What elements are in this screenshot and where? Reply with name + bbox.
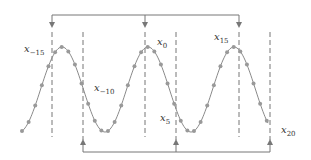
top-bracket-arrows <box>49 15 242 28</box>
label-subscript: 0 <box>163 42 167 50</box>
sample-point <box>46 64 50 68</box>
sample-point <box>66 49 70 53</box>
sample-point <box>146 45 150 49</box>
sample-point <box>166 81 170 85</box>
sample-point <box>86 102 90 106</box>
sample-point <box>33 103 37 107</box>
sample-point <box>205 103 209 107</box>
label-subscript: −15 <box>30 49 45 57</box>
sample-point <box>152 49 156 53</box>
sample-point <box>93 119 97 123</box>
sample-point <box>192 129 196 133</box>
label-x-15: x−15 <box>24 44 44 57</box>
sample-point <box>159 63 163 67</box>
sample-point <box>40 83 44 87</box>
sample-point <box>252 81 256 85</box>
sample-point <box>126 83 130 87</box>
label-subscript: 20 <box>287 130 296 138</box>
sample-point <box>20 129 24 133</box>
sample-point <box>119 103 123 107</box>
label-x20: x20 <box>281 125 296 138</box>
sample-point <box>106 129 110 133</box>
bottom-bracket-arrows <box>80 139 273 152</box>
sample-point <box>73 63 77 67</box>
sample-point <box>258 102 262 106</box>
sample-point <box>199 120 203 124</box>
arrow-down-icon <box>142 22 148 28</box>
sample-point <box>80 81 84 85</box>
arrow-down-icon <box>49 22 55 28</box>
sample-point <box>185 129 189 133</box>
sample-point <box>53 50 57 54</box>
sample-point <box>179 119 183 123</box>
label-subscript: 5 <box>166 118 170 126</box>
label-x5: x5 <box>160 113 170 126</box>
label-x15: x15 <box>214 32 229 45</box>
sample-point <box>238 49 242 53</box>
label-x-10: x−10 <box>94 83 114 96</box>
sample-point <box>27 120 31 124</box>
sample-point <box>218 64 222 68</box>
label-subscript: −10 <box>100 88 115 96</box>
arrow-up-icon <box>267 139 273 145</box>
sample-point <box>139 50 143 54</box>
sample-point <box>225 50 229 54</box>
sample-point <box>232 45 236 49</box>
sample-points <box>20 45 269 133</box>
sample-point <box>60 45 64 49</box>
sampled-sine-diagram <box>0 0 311 160</box>
sample-point <box>132 64 136 68</box>
label-subscript: 15 <box>220 37 229 45</box>
arrow-up-icon <box>80 139 86 145</box>
arrow-down-icon <box>236 22 242 28</box>
label-x0: x0 <box>157 37 167 50</box>
sample-point <box>265 119 269 123</box>
sample-point <box>113 120 117 124</box>
sample-point <box>245 63 249 67</box>
sample-point <box>172 102 176 106</box>
arrow-up-icon <box>173 139 179 145</box>
sample-point <box>212 83 216 87</box>
sample-point <box>99 129 103 133</box>
